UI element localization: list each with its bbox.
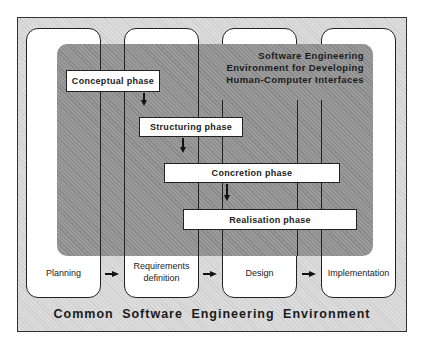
common-environment-title: Common Software Engineering Environment xyxy=(17,307,407,321)
stage-label: Planning xyxy=(27,267,100,279)
phase-concretion: Concretion phase xyxy=(164,163,340,183)
hci-environment-title: Software Engineering Environment for Dev… xyxy=(226,50,364,86)
phase-structuring: Structuring phase xyxy=(139,117,243,137)
stage-label: Design xyxy=(223,267,296,279)
stage-label: Implementation xyxy=(322,267,395,279)
phase-conceptual: Conceptual phase xyxy=(66,70,160,92)
phase-realisation: Realisation phase xyxy=(183,209,357,230)
stage-label: Requirements definition xyxy=(125,260,198,284)
